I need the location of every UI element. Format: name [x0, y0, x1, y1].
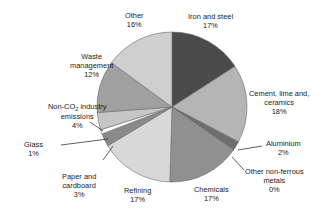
slice-label-non-co2: Non-CO2 industry emissions 4%	[48, 102, 107, 130]
slice-label-other-non-ferrous: Other non-ferrous metals 0%	[245, 167, 304, 194]
slice-label-non-co2-prefix: Non-CO	[48, 102, 75, 111]
slice-label-iron-and-steel-name: Iron and steel	[188, 12, 233, 21]
slice-label-other-non-ferrous-name-line2: metals	[245, 176, 304, 185]
slice-label-glass: Glass 1%	[24, 140, 43, 158]
slice-label-other-non-ferrous-value: 0%	[245, 185, 304, 194]
slice-label-chemicals: Chemicals 17%	[194, 185, 229, 203]
slice-label-other: Other 16%	[125, 11, 144, 29]
slice-label-refining-name: Refining	[124, 186, 151, 195]
pie-slices-group	[97, 32, 247, 182]
slice-label-iron-and-steel-value: 17%	[188, 21, 233, 30]
slice-label-paper-name-line2: cardboard	[62, 181, 96, 190]
slice-label-waste-name-line1: Waste	[70, 52, 113, 61]
slice-label-waste-name-line2: management	[70, 61, 113, 70]
slice-label-non-co2-suffix: industry	[78, 102, 106, 111]
slice-label-paper-value: 3%	[62, 190, 96, 199]
slice-label-aluminium: Aluminium 2%	[266, 139, 301, 157]
slice-label-glass-name: Glass	[24, 140, 43, 149]
slice-label-paper-and-cardboard: Paper and cardboard 3%	[62, 172, 96, 199]
slice-label-non-co2-subscript: 2	[75, 106, 78, 112]
leader-line-other-non-ferrous	[232, 157, 244, 170]
slice-label-chemicals-value: 17%	[194, 194, 229, 203]
slice-label-other-non-ferrous-name-line1: Other non-ferrous	[245, 167, 304, 176]
slice-label-non-co2-value: 4%	[48, 121, 107, 130]
slice-label-chemicals-name: Chemicals	[194, 185, 229, 194]
slice-label-cement-name-line2: ceramics	[249, 98, 309, 107]
slice-label-paper-name-line1: Paper and	[62, 172, 96, 181]
leader-line-glass	[61, 139, 108, 145]
leader-line-paper	[103, 146, 113, 160]
slice-label-non-co2-name-line2: emissions	[48, 112, 107, 121]
slice-label-non-co2-name-line1: Non-CO2 industry	[48, 102, 107, 112]
slice-label-cement: Cement, lime and, ceramics 18%	[249, 89, 309, 116]
slice-label-aluminium-value: 2%	[266, 148, 301, 157]
slice-label-refining: Refining 17%	[124, 186, 151, 204]
leader-line-aluminium	[238, 146, 262, 150]
slice-label-waste-management: Waste management 12%	[70, 52, 113, 79]
pie-chart-figure: Iron and steel 17% Cement, lime and, cer…	[0, 0, 336, 215]
slice-label-other-value: 16%	[125, 20, 144, 29]
slice-label-glass-value: 1%	[24, 149, 43, 158]
slice-label-iron-and-steel: Iron and steel 17%	[188, 12, 233, 30]
slice-label-refining-value: 17%	[124, 195, 151, 204]
slice-label-aluminium-name: Aluminium	[266, 139, 301, 148]
slice-label-cement-value: 18%	[249, 107, 309, 116]
slice-label-cement-name-line1: Cement, lime and,	[249, 89, 309, 98]
slice-label-waste-value: 12%	[70, 70, 113, 79]
slice-label-other-name: Other	[125, 11, 144, 20]
